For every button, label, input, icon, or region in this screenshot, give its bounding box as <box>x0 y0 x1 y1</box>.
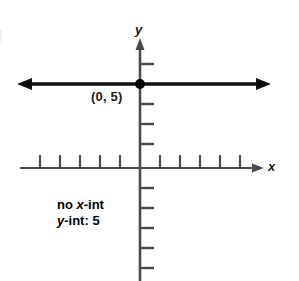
note-y-suffix: -int: 5 <box>64 213 99 228</box>
note-line-no-x-int: no x-int <box>57 197 104 213</box>
x-axis-ticks-negative <box>40 155 120 168</box>
note-x-suffix: -int <box>84 197 104 212</box>
y-axis-label: y <box>135 22 142 37</box>
intercept-note: no x-int y-int: 5 <box>57 197 104 229</box>
x-axis <box>20 155 264 173</box>
note-x-prefix: no <box>57 197 77 212</box>
graph-canvas <box>0 0 299 281</box>
y-axis-ticks-negative <box>140 188 154 268</box>
note-x-variable: x <box>77 197 84 212</box>
x-axis-label: x <box>268 159 275 174</box>
plotted-line-y-equals-5 <box>17 78 271 90</box>
line-right-arrowhead <box>256 78 271 90</box>
x-axis-ticks-positive <box>160 155 240 168</box>
y-intercept-point-marker <box>135 79 145 89</box>
point-label-0-5: (0, 5) <box>91 89 123 104</box>
x-axis-arrowhead <box>252 164 264 173</box>
page-edge-artifact <box>0 30 2 44</box>
y-axis <box>136 38 155 281</box>
y-axis-ticks-positive <box>140 64 154 144</box>
note-line-y-int: y-int: 5 <box>57 213 104 229</box>
line-left-arrowhead <box>17 78 32 90</box>
coordinate-plane-figure: y x (0, 5) no x-int y-int: 5 <box>0 0 299 281</box>
y-axis-arrowhead <box>136 38 145 50</box>
